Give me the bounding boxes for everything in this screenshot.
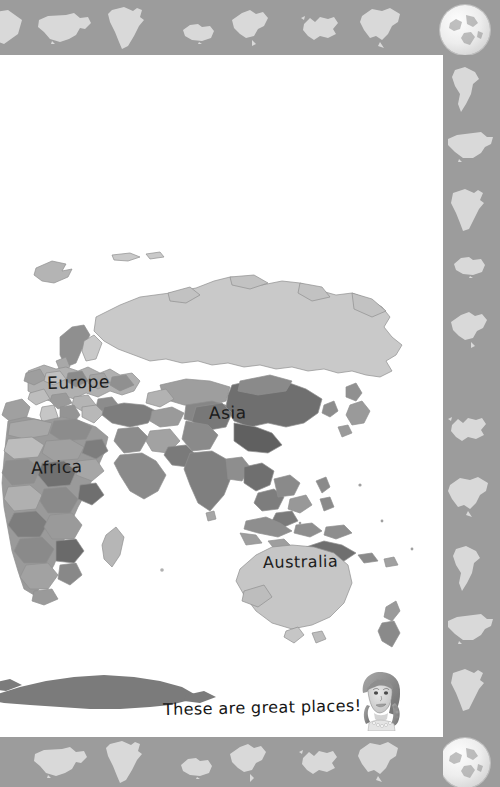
decor-band-right [443,0,500,787]
silhouette-australia-b3 [178,756,214,780]
silhouette-partial-shape [0,8,28,48]
silhouette-china-r5 [447,310,489,352]
silhouette-africa [106,6,148,50]
silhouette-china-b4 [226,742,268,786]
silhouette-china [228,8,270,50]
silhouette-africa-r10 [448,668,488,712]
silhouette-africa-b2 [104,740,146,784]
silhouette-usa [36,11,92,45]
silhouette-europe [300,14,340,44]
silhouette-south-america-r8 [450,545,484,593]
silhouette-north-america [358,6,404,50]
decor-band-bottom [0,737,500,787]
silhouette-australia [180,22,216,44]
map-label-africa: Africa [31,456,83,478]
world-map [0,55,443,737]
decor-band-top [0,0,500,55]
silhouette-europe-b5 [298,748,340,778]
silhouette-africa-r3 [448,188,488,232]
silhouette-usa-r2 [445,130,495,162]
map-label-europe: Europe [47,371,110,393]
map-label-asia: Asia [209,402,247,423]
silhouette-usa-r9 [445,612,495,644]
silhouette-australia-r4 [451,255,487,279]
silhouette-europe-r6 [447,415,489,445]
map-paper: Europe Asia Africa Australia These are g… [0,55,443,737]
page-root: Europe Asia Africa Australia These are g… [0,0,500,787]
girl-portrait-illustration [355,669,407,731]
silhouette-north-america-r7 [446,475,492,519]
map-label-australia: Australia [263,552,339,572]
silhouette-north-america-b6 [356,740,402,784]
silhouette-usa-b1 [32,745,88,779]
silhouette-south-america-r1 [449,66,483,114]
